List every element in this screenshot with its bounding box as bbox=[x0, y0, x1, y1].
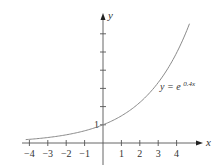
y-axis-label: y bbox=[107, 9, 113, 21]
x-tick-label: −3 bbox=[42, 148, 53, 159]
y-tick-label-1: 1 bbox=[94, 119, 99, 130]
x-tick-label: 3 bbox=[156, 148, 161, 159]
x-axis-label: x bbox=[205, 136, 211, 148]
x-tick-label: 1 bbox=[119, 148, 124, 159]
y-axis-arrow-icon bbox=[101, 13, 106, 20]
x-tick-label: −1 bbox=[79, 148, 90, 159]
equation-exponent: 0.4x bbox=[183, 80, 196, 88]
x-tick-label: −2 bbox=[61, 148, 72, 159]
equation-main: y = e bbox=[159, 81, 181, 92]
x-tick-label: 2 bbox=[137, 148, 142, 159]
x-tick-label: −4 bbox=[24, 148, 35, 159]
exponential-chart: x y −4−3−2−11234 1 y = e 0.4x bbox=[0, 0, 221, 167]
equation-label: y = e 0.4x bbox=[159, 80, 196, 92]
x-tick-label: 4 bbox=[174, 148, 179, 159]
x-axis-arrow-icon bbox=[196, 141, 203, 146]
